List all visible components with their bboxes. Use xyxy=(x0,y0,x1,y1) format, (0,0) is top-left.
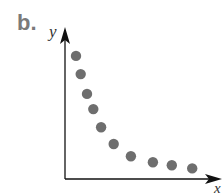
data-point xyxy=(109,139,119,149)
y-axis-label: y xyxy=(47,22,57,41)
data-point xyxy=(82,89,92,99)
data-point xyxy=(88,104,98,114)
x-axis-label: x xyxy=(213,180,221,193)
data-point xyxy=(71,51,81,61)
data-point xyxy=(126,151,136,161)
data-point xyxy=(187,163,197,173)
data-point xyxy=(76,69,86,79)
data-point xyxy=(148,157,158,167)
scatter-chart: y x xyxy=(0,0,222,193)
data-point xyxy=(167,160,177,170)
data-point xyxy=(96,122,106,132)
axes xyxy=(60,27,222,184)
data-points xyxy=(71,51,198,174)
